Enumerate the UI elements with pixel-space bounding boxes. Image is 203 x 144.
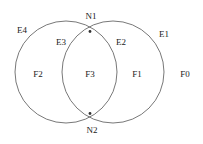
face-label-f2: F2 bbox=[33, 69, 43, 79]
diagram-canvas: N1 N2 E1 E2 E3 E4 F0 F1 F2 F3 bbox=[0, 0, 203, 144]
face-label-f0: F0 bbox=[180, 69, 190, 79]
edge-label-e2: E2 bbox=[116, 37, 126, 47]
edge-label-e1: E1 bbox=[159, 29, 169, 39]
edge-label-e4: E4 bbox=[17, 25, 27, 35]
face-label-f3: F3 bbox=[85, 69, 95, 79]
node-label-n1: N1 bbox=[85, 11, 96, 21]
right-circle bbox=[62, 21, 164, 123]
node-point-n1 bbox=[89, 30, 92, 33]
node-point-n2 bbox=[89, 112, 92, 115]
venn-diagram-graphic bbox=[0, 0, 203, 144]
node-label-n2: N2 bbox=[86, 125, 97, 135]
edge-label-e3: E3 bbox=[56, 37, 66, 47]
face-label-f1: F1 bbox=[132, 69, 142, 79]
